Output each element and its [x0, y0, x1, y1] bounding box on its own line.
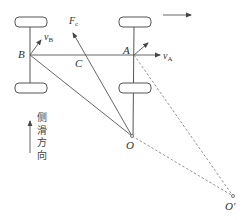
- right-axle: [119, 17, 151, 135]
- label-O: O: [126, 140, 134, 151]
- label-Fc: Fc: [69, 16, 78, 28]
- vehicle-kinematics-diagram: [0, 0, 250, 220]
- point-Oprime-marker: [232, 195, 235, 198]
- wheel-top-right: [119, 17, 151, 27]
- label-vB: vB: [44, 32, 53, 44]
- velocity-A-slip-arrow: [134, 43, 148, 55]
- dashed-line-A-Oprime: [134, 55, 233, 196]
- dashed-line-O-Oprime: [132, 136, 233, 196]
- wheel-bottom-left: [15, 83, 47, 93]
- velocity-vB-arrow: [30, 40, 41, 55]
- label-O-prime: O': [225, 201, 235, 212]
- label-A: A: [123, 45, 130, 56]
- label-vA: vA: [163, 51, 173, 63]
- point-O-marker: [131, 135, 134, 138]
- label-B: B: [18, 49, 25, 60]
- side-slip-direction-label: 侧 滑 方 向: [36, 112, 48, 162]
- wheel-top-left: [15, 17, 47, 27]
- label-C: C: [75, 58, 82, 69]
- wheel-bottom-right: [119, 83, 151, 93]
